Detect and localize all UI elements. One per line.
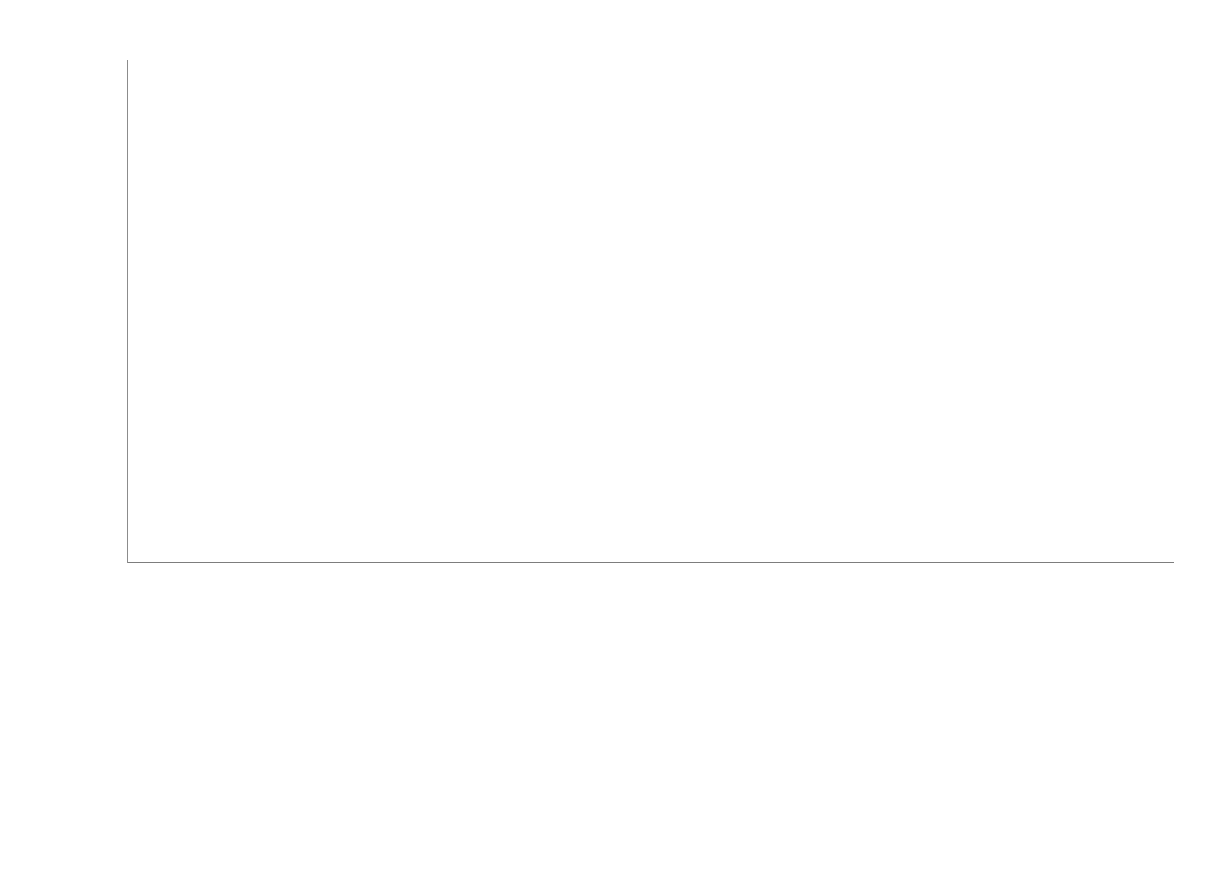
legend-swatch-icon-rank-with-sc <box>940 818 957 835</box>
legend-item-rank-without-sc[interactable] <box>940 775 1195 792</box>
plot-area <box>128 60 1173 562</box>
legend-item-rank-with-sc[interactable] <box>940 818 1195 835</box>
chart-legend <box>940 775 1195 861</box>
stacked-bar-chart <box>0 0 1205 883</box>
y-axis-labels <box>0 0 112 883</box>
x-axis-line <box>128 562 1174 563</box>
legend-swatch-icon-rank-without-sc <box>940 775 957 792</box>
